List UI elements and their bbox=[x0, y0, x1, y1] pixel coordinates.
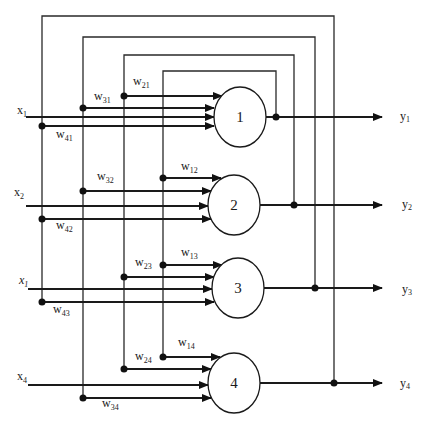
junction-dot bbox=[39, 123, 46, 130]
output-label-y4: y4 bbox=[400, 376, 410, 391]
weight-label-w41: w41 bbox=[56, 127, 73, 143]
neuron-3: 3 bbox=[212, 258, 264, 318]
output-label-y1: y1 bbox=[400, 109, 410, 124]
neuron-label: 3 bbox=[234, 280, 242, 296]
weight-label-w43: w43 bbox=[53, 302, 70, 318]
junction-dot bbox=[121, 366, 128, 373]
neuron-2: 2 bbox=[208, 175, 260, 235]
input-label-x1-a: x1 bbox=[17, 103, 27, 119]
junction-dot bbox=[160, 262, 167, 269]
weight-label-w32: w32 bbox=[97, 169, 114, 185]
weight-label-w23: w23 bbox=[135, 255, 152, 271]
output-label-y2: y2 bbox=[402, 197, 412, 212]
weight-label-w14: w14 bbox=[178, 335, 195, 351]
input-labels: x1 x2 x1 x4 bbox=[14, 103, 28, 385]
neuron-1: 1 bbox=[214, 87, 266, 147]
output-label-y3: y3 bbox=[402, 282, 412, 297]
network-diagram: 1 2 3 4 x1 x2 x1 x4 y1 y2 y3 y4 w21 w31 … bbox=[0, 0, 426, 428]
output-labels: y1 y2 y3 y4 bbox=[400, 109, 412, 391]
weight-label-w21: w21 bbox=[133, 74, 150, 90]
junction-dot bbox=[160, 354, 167, 361]
feedback-loops bbox=[42, 16, 334, 398]
junction-dot bbox=[312, 285, 319, 292]
junction-dot bbox=[291, 202, 298, 209]
weight-label-w13: w13 bbox=[181, 245, 198, 261]
input-label-x4: x4 bbox=[17, 369, 27, 385]
output-arrows bbox=[260, 117, 382, 383]
junction-dot bbox=[80, 395, 87, 402]
input-label-x2: x2 bbox=[14, 185, 24, 201]
weight-label-w42: w42 bbox=[56, 218, 73, 234]
junction-dot bbox=[39, 299, 46, 306]
junction-dot bbox=[121, 274, 128, 281]
neuron-label: 1 bbox=[236, 109, 244, 125]
neuron-label: 2 bbox=[230, 197, 238, 213]
weight-labels: w21 w31 w41 w12 w32 w42 w13 w23 w43 w14 … bbox=[53, 74, 198, 412]
input-label-x1-b: x1 bbox=[18, 273, 28, 289]
weight-label-w12: w12 bbox=[181, 159, 198, 175]
junction-dot bbox=[39, 216, 46, 223]
neuron-4: 4 bbox=[208, 353, 260, 413]
feedback-line-y3 bbox=[83, 37, 315, 398]
junction-dot bbox=[273, 114, 280, 121]
weight-label-w24: w24 bbox=[135, 349, 152, 365]
neuron-label: 4 bbox=[230, 375, 238, 391]
junction-dot bbox=[80, 188, 87, 195]
junction-dot bbox=[80, 105, 87, 112]
junction-dot bbox=[160, 175, 167, 182]
junction-dot bbox=[121, 93, 128, 100]
weight-label-w31: w31 bbox=[94, 89, 111, 105]
junction-dot bbox=[331, 380, 338, 387]
